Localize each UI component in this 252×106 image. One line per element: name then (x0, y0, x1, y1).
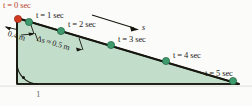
ball-t0 (14, 15, 21, 22)
ball-t3 (107, 41, 114, 48)
scan-edge-artifact (0, 86, 252, 87)
label-direction-s: s (142, 24, 145, 32)
label-t0: t = 0 sec (3, 1, 31, 10)
label-t5: t = 5 sec (205, 69, 233, 78)
ball-t1 (25, 18, 32, 25)
direction-arrow-head-icon (130, 26, 139, 31)
ball-t5 (229, 77, 236, 84)
label-t4: t = 4 sec (173, 51, 201, 60)
label-t2: t = 2 sec (68, 20, 96, 29)
ball-t4 (162, 57, 169, 64)
ball-t2 (57, 27, 64, 34)
right-angle-dot-icon (22, 76, 25, 79)
bottom-caption-fragment: 1 (36, 90, 40, 99)
label-t1: t = 1 sec (36, 11, 64, 20)
label-t3: t = 3 sec (118, 35, 146, 44)
direction-arrow-shaft (92, 15, 134, 28)
physics-figure-inclined-plane: t = 0 sec t = 1 sec t = 2 sec t = 3 sec … (0, 0, 252, 106)
